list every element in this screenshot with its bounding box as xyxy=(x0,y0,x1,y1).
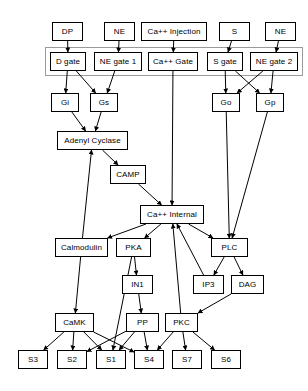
node-ip3[interactable]: IP3 xyxy=(193,275,224,294)
edge-go-to-plc xyxy=(226,112,229,238)
edge-camk-to-s2 xyxy=(73,332,74,350)
node-s6[interactable]: S6 xyxy=(211,350,241,369)
edge-pkc-to-ca_internal xyxy=(173,224,181,313)
edge-pp-to-s1 xyxy=(119,332,134,350)
node-gp[interactable]: Gp xyxy=(256,93,284,112)
edge-plc-to-ip3 xyxy=(214,257,224,275)
edge-camp-to-ca_internal xyxy=(138,184,161,205)
edge-ca_internal-to-plc xyxy=(189,224,213,238)
node-s1[interactable]: S1 xyxy=(96,350,126,369)
node-s[interactable]: S xyxy=(219,22,250,41)
node-ne_gate_1[interactable]: NE gate 1 xyxy=(94,52,142,71)
edge-plc-to-dag xyxy=(234,257,243,275)
edge-ip3-to-ca_internal xyxy=(177,224,204,275)
edge-calmodulin-to-camk xyxy=(75,257,80,313)
edge-pkc-to-s7 xyxy=(183,332,186,350)
node-ne2[interactable]: NE xyxy=(265,22,296,41)
edge-ca_gate-to-ca_internal xyxy=(172,71,173,205)
node-s2[interactable]: S2 xyxy=(57,350,87,369)
node-dag[interactable]: DAG xyxy=(231,275,264,294)
node-camk[interactable]: CaMK xyxy=(55,313,94,332)
edge-s_gate-to-go xyxy=(225,71,226,93)
edges xyxy=(44,41,279,352)
node-ne1[interactable]: NE xyxy=(104,22,135,41)
edge-calmodulin-to-adenyl xyxy=(82,150,91,238)
node-camp[interactable]: CAMP xyxy=(110,165,146,184)
edge-in1-to-pp xyxy=(139,294,142,313)
node-s4[interactable]: S4 xyxy=(134,350,164,369)
edge-d_gate-to-gi xyxy=(66,71,68,93)
edge-s_gate-to-gp xyxy=(235,71,259,93)
edge-ne2-to-ne_gate_2 xyxy=(276,41,278,52)
node-pkc[interactable]: PKC xyxy=(165,313,198,332)
signal-transduction-diagram: DPNECa++ InjectionSNED gateNE gate 1Ca++… xyxy=(0,0,308,391)
edge-dag-to-pkc xyxy=(198,294,231,313)
edge-ne1-to-ne_gate_1 xyxy=(118,41,119,52)
edge-pka-to-in1 xyxy=(135,257,137,275)
node-ca_gate[interactable]: Ca++ Gate xyxy=(148,52,198,71)
node-dp[interactable]: DP xyxy=(52,22,83,41)
edge-pkc-to-s6 xyxy=(193,332,215,350)
edge-pkc-to-s4 xyxy=(157,332,173,350)
node-s7[interactable]: S7 xyxy=(172,350,202,369)
node-in1[interactable]: IN1 xyxy=(122,275,153,294)
node-ca_inj[interactable]: Ca++ Injection xyxy=(141,22,207,41)
edge-gp-to-plc xyxy=(232,112,267,238)
edge-ca_internal-to-calmodulin xyxy=(108,224,146,238)
edge-adenyl-to-camp xyxy=(102,150,118,165)
edge-d_gate-to-gs xyxy=(76,71,95,93)
edge-ca_internal-to-pka xyxy=(145,224,161,238)
node-adenyl[interactable]: Adenyl Cyclase xyxy=(57,131,128,150)
node-s_gate[interactable]: S gate xyxy=(207,52,243,71)
edge-gi-to-adenyl xyxy=(72,112,86,131)
node-ne_gate_2[interactable]: NE gate 2 xyxy=(250,52,298,71)
node-plc[interactable]: PLC xyxy=(211,238,248,257)
edge-ne_gate_1-to-gs xyxy=(107,71,115,93)
node-s3[interactable]: S3 xyxy=(18,350,48,369)
node-pp[interactable]: PP xyxy=(126,313,159,332)
edge-gs-to-adenyl xyxy=(95,112,101,131)
node-d_gate[interactable]: D gate xyxy=(50,52,86,71)
node-gs[interactable]: Gs xyxy=(90,93,118,112)
edge-s-to-s_gate xyxy=(228,41,231,52)
node-calmodulin[interactable]: Calmodulin xyxy=(55,238,108,257)
node-gi[interactable]: Gi xyxy=(51,93,79,112)
node-go[interactable]: Go xyxy=(212,93,240,112)
node-ca_internal[interactable]: Ca++ Internal xyxy=(140,205,204,224)
edge-pp-to-s4 xyxy=(144,332,147,350)
edge-ne_gate_2-to-go xyxy=(237,71,263,93)
edge-camk-to-s3 xyxy=(44,332,64,350)
edge-ne_gate_2-to-gp xyxy=(271,71,273,93)
node-pka[interactable]: PKA xyxy=(116,238,151,257)
